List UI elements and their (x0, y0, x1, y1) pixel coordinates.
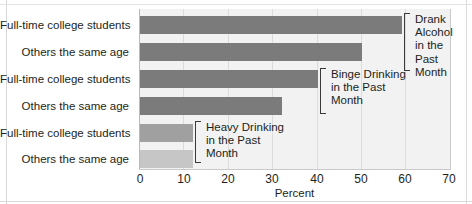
bracket-icon (404, 13, 410, 71)
x-tick-20: 20 (221, 172, 234, 186)
category-label: Full-time college students (0, 16, 129, 34)
annotation-line: in the (415, 39, 453, 52)
x-tick-10: 10 (177, 172, 190, 186)
category-label: Full-time college students (0, 70, 129, 88)
annotation-line: Drank (415, 13, 453, 26)
annotation-line: Alcohol (415, 26, 453, 39)
x-tick-50: 50 (354, 172, 367, 186)
annotation-heavy-drinking-text: Heavy Drinking in the Past Month (206, 121, 284, 161)
category-label: Others the same age (0, 150, 129, 168)
x-tick-70: 70 (442, 172, 455, 186)
bar-binge-others (140, 97, 282, 115)
annotation-line: Month (331, 94, 406, 107)
annotation-drank-alcohol-text: Drank Alcohol in the Past Month (415, 13, 453, 79)
bar-drank-alcohol-others (140, 43, 362, 61)
bar-binge-students (140, 70, 318, 88)
figure-border-top (0, 4, 472, 5)
bar-drank-alcohol-students (140, 16, 402, 34)
annotation-line: Month (415, 66, 453, 79)
annotation-binge-drinking-text: Binge Drinking in the Past Month (331, 68, 406, 108)
annotation-line: Heavy Drinking (206, 121, 284, 134)
x-tick-60: 60 (398, 172, 411, 186)
category-label: Others the same age (0, 97, 129, 115)
bar-heavy-students (140, 124, 193, 142)
bracket-icon (320, 68, 326, 114)
x-tick-0: 0 (137, 172, 144, 186)
category-label: Full-time college students (0, 124, 129, 142)
annotation-line: Binge Drinking (331, 68, 406, 81)
annotation-line: Past (415, 53, 453, 66)
figure-border-right (466, 0, 467, 204)
annotation-line: Month (206, 147, 284, 160)
x-axis-title: Percent (139, 187, 450, 199)
bracket-icon (195, 121, 201, 163)
x-axis-line (139, 169, 450, 170)
x-tick-30: 30 (265, 172, 278, 186)
bar-heavy-others (140, 150, 193, 168)
annotation-line: in the Past (331, 81, 406, 94)
figure-border-bottom (0, 201, 472, 202)
category-label: Others the same age (0, 43, 129, 61)
category-axis-labels: Full-time college students Others the sa… (0, 9, 133, 170)
x-tick-40: 40 (310, 172, 323, 186)
annotation-line: in the Past (206, 134, 284, 147)
chart-figure: Full-time college students Others the sa… (0, 0, 472, 204)
